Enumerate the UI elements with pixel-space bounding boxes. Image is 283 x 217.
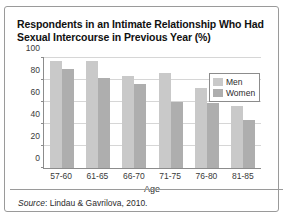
x-tick-label: 76-80 (196, 171, 218, 181)
legend-item-women: Women (213, 87, 255, 98)
x-tick-label: 61-65 (87, 171, 109, 181)
source-note: Source: Lindau & Gavrilova, 2010. (18, 198, 147, 208)
bar-men-81-85 (231, 106, 243, 168)
bar-men-71-75 (159, 73, 171, 168)
y-tick-label: 40 (31, 109, 40, 119)
source-label: Source (18, 198, 45, 208)
x-tick-label: 81-85 (232, 171, 254, 181)
bar-men-76-80 (195, 88, 207, 168)
bar-women-57-60 (62, 69, 74, 168)
source-text: Lindau & Gavrilova, 2010. (50, 198, 148, 208)
source-divider (10, 189, 283, 190)
bar-women-61-65 (98, 78, 110, 168)
bar-women-66-70 (134, 84, 146, 168)
bar-men-66-70 (122, 76, 134, 168)
y-tick-label: 80 (31, 65, 40, 75)
bar-group (50, 58, 74, 168)
y-tick-label: 0 (35, 153, 40, 163)
y-tick-label: 60 (31, 87, 40, 97)
x-tick-label: 71-75 (159, 171, 181, 181)
bar-group (86, 58, 110, 168)
x-tick-label: 66-70 (123, 171, 145, 181)
legend-label-men: Men (226, 77, 243, 87)
bar-men-57-60 (50, 61, 62, 168)
bar-men-61-65 (86, 61, 98, 168)
y-tick-label: 20 (31, 131, 40, 141)
figure-container: Respondents in an Intimate Relationship … (0, 0, 283, 217)
legend-swatch-men-icon (213, 78, 223, 86)
x-tick-labels: 57-6061-6566-7071-7576-8081-85 (43, 171, 261, 181)
plot-area: 020406080100 57-6061-6566-7071-7576-8081… (13, 51, 275, 185)
legend-swatch-women-icon (213, 89, 223, 97)
legend-item-men: Men (213, 76, 255, 87)
y-tick-label: 100 (26, 43, 40, 53)
legend-label-women: Women (226, 88, 255, 98)
bar-group (159, 58, 183, 168)
bar-women-76-80 (207, 103, 219, 168)
chart-frame: Respondents in an Intimate Relationship … (4, 6, 279, 212)
bar-group (122, 58, 146, 168)
chart-title: Respondents in an Intimate Relationship … (17, 18, 269, 44)
bar-women-81-85 (243, 120, 255, 168)
legend: Men Women (209, 73, 260, 102)
x-tick-label: 57-60 (50, 171, 72, 181)
bar-women-71-75 (171, 102, 183, 168)
